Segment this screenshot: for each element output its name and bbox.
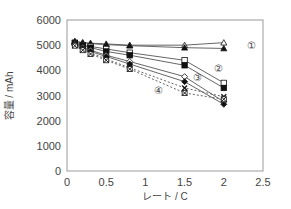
series-annotation: ③ bbox=[193, 72, 202, 83]
x-tick-label: 0.5 bbox=[99, 176, 114, 188]
square-marker-icon bbox=[221, 80, 226, 85]
series-line bbox=[75, 41, 224, 45]
capacity-vs-rate-chart: 010002000300040005000600000.511.522.5 ①②… bbox=[0, 0, 291, 209]
x-axis-label: レート / C bbox=[142, 191, 188, 202]
y-tick-label: 5000 bbox=[37, 39, 61, 51]
annotations: ①②③④ bbox=[154, 40, 256, 96]
y-tick-label: 1000 bbox=[37, 140, 61, 152]
series-annotation: ① bbox=[247, 40, 256, 51]
series-annotation: ④ bbox=[154, 85, 163, 96]
y-tick-label: 4000 bbox=[37, 64, 61, 76]
cross-marker-icon bbox=[182, 85, 187, 90]
plot-frame bbox=[67, 20, 263, 171]
square-marker-icon bbox=[221, 85, 226, 90]
data-series bbox=[72, 41, 227, 105]
series-annotation: ② bbox=[214, 63, 223, 74]
y-tick-label: 0 bbox=[55, 165, 61, 177]
square-marker-icon bbox=[182, 63, 187, 68]
x-tick-label: 1.5 bbox=[177, 176, 192, 188]
y-tick-label: 2000 bbox=[37, 115, 61, 127]
axes: 010002000300040005000600000.511.522.5 bbox=[37, 14, 271, 188]
series-group bbox=[72, 38, 227, 107]
y-tick-label: 3000 bbox=[37, 90, 61, 102]
x-tick-label: 0 bbox=[64, 176, 70, 188]
square-marker-icon bbox=[127, 53, 132, 58]
diamond-marker-icon bbox=[182, 79, 188, 85]
chart-svg: 010002000300040005000600000.511.522.5 ①②… bbox=[0, 0, 291, 209]
x-tick-label: 2.5 bbox=[255, 176, 270, 188]
x-tick-label: 1 bbox=[142, 176, 148, 188]
square-marker-icon bbox=[182, 58, 187, 63]
x-tick-label: 2 bbox=[221, 176, 227, 188]
y-axis-label: 容量 / mAh bbox=[3, 72, 15, 121]
y-tick-label: 6000 bbox=[37, 14, 61, 26]
